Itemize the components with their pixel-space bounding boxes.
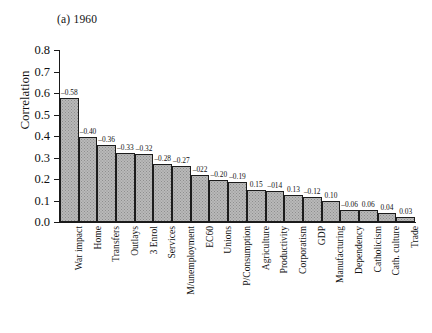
bar-item: 0.10 <box>322 50 341 222</box>
bar-item: 0.15 <box>247 50 266 222</box>
bar-rect <box>228 182 247 222</box>
bar-rect <box>172 166 191 222</box>
bar-value-label: –0.20 <box>210 170 227 179</box>
bar-item: –022 <box>191 50 210 222</box>
bar-value-label: –0.32 <box>136 144 153 153</box>
bar-value-label: –0.27 <box>173 156 190 165</box>
bar-item: –0.28 <box>153 50 172 222</box>
plot-area: 0.80.70.60.50.40.30.20.10.0 –0.58–0.40–0… <box>60 50 415 222</box>
bar-item: –0.40 <box>79 50 98 222</box>
bar-rect <box>266 191 285 222</box>
bar-value-label: 0.03 <box>399 207 412 216</box>
bar-value-label: –022 <box>193 165 208 174</box>
y-axis-tick-label: 0.7 <box>34 64 50 80</box>
bar-item: 0.04 <box>378 50 397 222</box>
x-axis-category: Home <box>79 224 98 324</box>
bar-value-label: –014 <box>267 181 282 190</box>
bar-value-label: –0.40 <box>80 127 97 136</box>
bar-value-label: 0.06 <box>362 200 375 209</box>
y-axis-tick: 0.0 <box>54 222 60 223</box>
bar-item: 0.06 <box>359 50 378 222</box>
bar-rect <box>303 197 322 222</box>
figure-panel: (a) 1960 Correlation 0.80.70.60.50.40.30… <box>0 0 432 333</box>
bar-rect <box>153 164 172 222</box>
bar-rect <box>60 98 79 222</box>
bar-rect <box>378 213 397 222</box>
bar-value-label: 0.04 <box>380 203 393 212</box>
bar-rect <box>116 153 135 222</box>
x-axis-category: Productivity <box>266 224 285 324</box>
x-axis-line <box>59 222 416 223</box>
x-axis-category: Agriculture <box>247 224 266 324</box>
bar-value-label: –0.19 <box>229 172 246 181</box>
bar-rect <box>209 180 228 222</box>
y-axis-title: Correlation <box>17 35 33 165</box>
x-axis-category: Catholicism <box>359 224 378 324</box>
bar-rect <box>97 145 116 222</box>
x-axis-category-labels: War impactHomeTransfersOutlays3 EnrolSer… <box>60 224 415 324</box>
bar-item: 0.03 <box>396 50 415 222</box>
x-axis-category: War impact <box>60 224 79 324</box>
bar-series: –0.58–0.40–0.36–0.33–0.32–0.28–0.27–022–… <box>60 50 415 222</box>
x-axis-category: Services <box>153 224 172 324</box>
x-axis-category: 3 Enrol <box>135 224 154 324</box>
bar-value-label: 0.15 <box>250 180 263 189</box>
x-axis-category: Corporatism <box>284 224 303 324</box>
bar-value-label: 0.10 <box>324 191 337 200</box>
bar-item: –0.27 <box>172 50 191 222</box>
x-axis-category: Transfers <box>97 224 116 324</box>
bar-rect <box>340 210 359 222</box>
bar-rect <box>396 217 415 222</box>
x-axis-category: Outlays <box>116 224 135 324</box>
x-axis-category: Manufacturing <box>322 224 341 324</box>
bar-item: –0.20 <box>209 50 228 222</box>
bar-rect <box>247 190 266 222</box>
y-axis-tick-label: 0.1 <box>34 193 50 209</box>
x-axis-category: P/Consumption <box>228 224 247 324</box>
y-axis-tick-label: 0.4 <box>34 128 50 144</box>
bar-item: –0.32 <box>135 50 154 222</box>
bar-value-label: 0.13 <box>287 185 300 194</box>
y-axis-tick-label: 0.6 <box>34 85 50 101</box>
x-axis-category: Trade <box>396 224 415 324</box>
y-axis-tick-label: 0.0 <box>34 214 50 230</box>
x-axis-category: Dependency <box>340 224 359 324</box>
x-axis-category-label: Trade <box>410 226 420 248</box>
bar-item: –0.12 <box>303 50 322 222</box>
bar-item: 0.13 <box>284 50 303 222</box>
x-axis-category: Unions <box>209 224 228 324</box>
bar-rect <box>322 201 341 222</box>
bar-rect <box>135 154 154 222</box>
x-axis-category: EC60 <box>191 224 210 324</box>
bar-item: –0.06 <box>340 50 359 222</box>
x-axis-category: Cath. culture <box>378 224 397 324</box>
bar-rect <box>191 175 210 222</box>
x-axis-category: M/unemployment <box>172 224 191 324</box>
y-axis-tick-label: 0.8 <box>34 42 50 58</box>
y-axis-tick-label: 0.5 <box>34 107 50 123</box>
bar-rect <box>284 195 303 222</box>
bar-item: –0.33 <box>116 50 135 222</box>
bar-rect <box>359 210 378 222</box>
bar-item: –0.58 <box>60 50 79 222</box>
bar-item: –0.19 <box>228 50 247 222</box>
bar-value-label: –0.36 <box>98 135 115 144</box>
y-axis-tick-label: 0.2 <box>34 171 50 187</box>
bar-value-label: –0.33 <box>117 143 134 152</box>
bar-value-label: –0.28 <box>154 154 171 163</box>
bar-value-label: –0.12 <box>304 187 321 196</box>
bar-value-label: –0.58 <box>61 88 78 97</box>
x-axis-category: GDP <box>303 224 322 324</box>
bar-item: –0.36 <box>97 50 116 222</box>
bar-rect <box>79 137 98 222</box>
y-axis-tick-label: 0.3 <box>34 150 50 166</box>
bar-item: –014 <box>266 50 285 222</box>
panel-title: (a) 1960 <box>57 13 97 25</box>
bar-value-label: –0.06 <box>341 200 358 209</box>
